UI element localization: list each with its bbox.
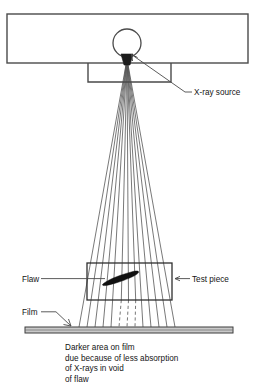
film-caption: Darker area on film due because of less … [65,343,179,384]
ray-line [79,59,127,327]
ray-fan-dashed-shadow [119,300,136,327]
test-piece-box [87,263,172,300]
caption-line-2: due because of less absorption [65,354,179,363]
caption-line-4: of flaw [65,375,89,384]
film-label: Film [22,308,38,317]
ray-line-dashed [127,300,129,327]
ray-line [127,59,175,327]
ray-line [111,59,127,327]
ray-line-dashed [119,300,121,327]
xray-tube-circle [113,29,141,57]
diagram-canvas: X-ray source Flaw Test piece Film Darker… [0,0,260,390]
caption-line-3: of X-rays in void [65,364,124,373]
ray-line-dashed [135,300,136,327]
test-piece-leader-line [175,276,190,280]
ray-line [95,59,127,327]
test-piece-label: Test piece [192,275,229,284]
film-leader-line [41,312,71,326]
caption-line-1: Darker area on film [65,343,135,352]
xray-source-label: X-ray source [194,88,241,97]
xray-testing-diagram: X-ray source Flaw Test piece Film Darker… [0,0,260,390]
flaw-label: Flaw [22,275,39,284]
